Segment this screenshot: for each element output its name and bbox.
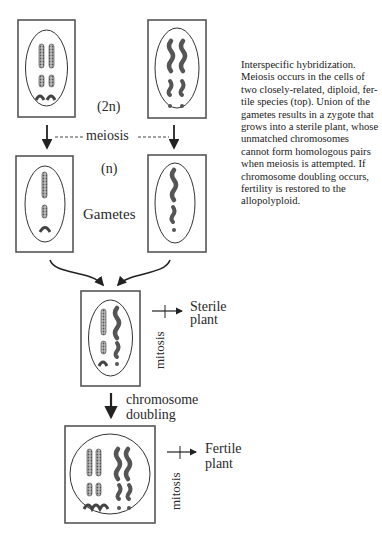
caption-line: Interspecific hybridization. [241, 59, 381, 71]
species-b-gamete [148, 155, 206, 252]
chromosome-bent [36, 96, 44, 100]
chromosome-dot [117, 506, 121, 510]
chromosome-long [87, 449, 92, 476]
chromosome-wavy [116, 449, 120, 479]
cell-frame [148, 20, 206, 118]
species-b-diploid-cell [148, 20, 206, 118]
chromosome-wavy-short [128, 485, 131, 499]
sterile-label-line2: plant [190, 313, 227, 326]
chromosome-wavy [115, 308, 119, 338]
chromosome-bent [99, 362, 107, 366]
chromosome-long [39, 44, 44, 68]
doubling-label-line2: doubling [126, 407, 198, 422]
caption-line: gametes results in a zygote that [241, 109, 381, 121]
allopolyploid-cell [65, 426, 155, 523]
caption-line: fertility is restored to the [241, 183, 381, 195]
caption-line: grows into a sterile plant, whose [241, 121, 381, 133]
chromosome-wavy [126, 449, 130, 479]
chromosome-wavy [169, 41, 173, 71]
chromosome-dot [115, 362, 119, 366]
chromosome-medium [42, 205, 47, 218]
cell-frame [18, 20, 75, 117]
fertilization-arrow-left [50, 260, 103, 285]
cell-frame [65, 426, 155, 523]
cell-nucleus [89, 300, 133, 376]
fertile-label-line1: Fertile [205, 441, 242, 456]
chromosome-wavy-short [116, 343, 119, 357]
chromosome-wavy-short [181, 81, 184, 95]
cell-nucleus [70, 434, 150, 514]
cell-nucleus [155, 28, 199, 108]
chromosome-medium [96, 483, 101, 496]
chromosome-doubling-label: chromosome doubling [126, 392, 198, 422]
caption-line: chromosome doubling occurs, [241, 171, 381, 183]
chromosome-dot [127, 506, 131, 510]
gametes-label: Gametes [83, 206, 135, 223]
caption-line: allopolyploid. [241, 195, 381, 207]
figure-caption: Interspecific hybridization. Meiosis occ… [241, 59, 381, 208]
caption-line: when meiosis is attempted. If [241, 158, 381, 170]
cell-frame [81, 291, 140, 386]
chromosome-dot [180, 104, 184, 108]
chromosome-wavy [181, 41, 185, 71]
chromosome-long [49, 44, 54, 68]
chromosome-dot [168, 104, 172, 108]
chromosome-medium [39, 75, 44, 87]
chromosome-medium [87, 483, 92, 496]
diploid-label: (2n) [97, 99, 120, 115]
chromosome-medium [101, 341, 106, 354]
hybrid-zygote-cell [81, 291, 140, 386]
mitosis-label-sterile: mitosis [152, 331, 168, 369]
meiosis-label: meiosis [86, 128, 129, 144]
mitosis-label-fertile: mitosis [168, 472, 184, 510]
chromosome-wavy-short [172, 207, 175, 222]
caption-line: unmatched chromosomes [241, 133, 381, 145]
chromosome-bent [47, 96, 55, 100]
sterile-plant-label: Sterile plant [190, 300, 227, 326]
fertilization-arrow-right [118, 260, 170, 285]
caption-line: tile species (top). Union of the [241, 96, 381, 108]
chromosome-wavy [172, 170, 176, 200]
cell-nucleus [26, 30, 68, 106]
chromosome-bent [40, 228, 50, 233]
fertile-plant-label: Fertile plant [205, 441, 242, 471]
cell-frame [148, 155, 206, 252]
caption-line: Meiosis occurs in the cells of [241, 71, 381, 83]
chromosome-medium [49, 75, 54, 87]
species-a-diploid-cell [18, 20, 75, 117]
haploid-label: (n) [101, 161, 117, 177]
chromosome-long [42, 172, 47, 198]
fertile-label-line2: plant [205, 456, 242, 471]
chromosome-dot [172, 228, 176, 232]
chromosome-wavy-short [169, 81, 172, 95]
chromosome-long [96, 449, 101, 476]
chromosome-long [101, 309, 106, 335]
doubling-label-line1: chromosome [126, 392, 198, 407]
caption-line: cannot form homologous pairs [241, 146, 381, 158]
species-a-gamete [16, 156, 73, 252]
caption-line: two closely-related, diploid, fer- [241, 84, 381, 96]
chromosome-wavy-short [118, 485, 121, 499]
